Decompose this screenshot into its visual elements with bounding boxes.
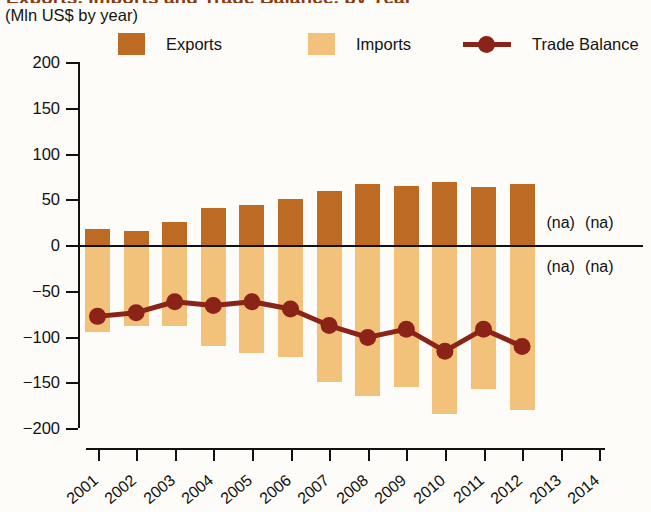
trade-balance-point-2011 <box>475 321 492 338</box>
trade-balance-point-2009 <box>398 321 415 338</box>
trade-balance-point-2008 <box>359 329 376 346</box>
chart-root: Exports, Imports and Trade Balance, by Y… <box>0 0 651 512</box>
trade-balance-line <box>0 0 651 512</box>
trade-balance-polyline <box>98 302 523 351</box>
trade-balance-point-2007 <box>321 317 338 334</box>
trade-balance-point-2001 <box>89 308 106 325</box>
trade-balance-point-2005 <box>243 293 260 310</box>
trade-balance-point-2004 <box>205 297 222 314</box>
plot-area: 200150100500−50−100−150−200(na)(na)(na)(… <box>0 0 651 512</box>
trade-balance-point-2006 <box>282 301 299 318</box>
trade-balance-point-2010 <box>436 343 453 360</box>
trade-balance-point-2012 <box>514 338 531 355</box>
trade-balance-point-2003 <box>166 293 183 310</box>
trade-balance-point-2002 <box>128 304 145 321</box>
